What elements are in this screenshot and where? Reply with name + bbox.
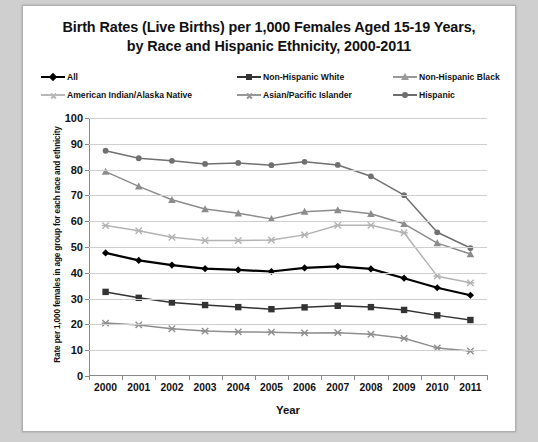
y-tick-label: 50 — [49, 241, 83, 253]
legend-item-all[interactable]: All — [41, 72, 78, 82]
data-point — [301, 264, 308, 271]
legend-marker-square-icon — [237, 72, 261, 82]
gridline — [89, 195, 487, 196]
data-point — [268, 237, 276, 243]
legend-item-non-hispanic-white[interactable]: Non-Hispanic White — [237, 72, 344, 82]
x-tick-label: 2009 — [393, 382, 416, 393]
data-point — [467, 280, 475, 286]
series-all — [102, 249, 474, 299]
x-tick-label: 2005 — [260, 382, 283, 393]
series-line — [106, 172, 471, 254]
y-tick-mark — [85, 350, 89, 351]
x-tick-mark — [155, 376, 156, 380]
data-point — [334, 263, 341, 270]
data-point — [235, 160, 241, 166]
data-point — [301, 304, 307, 310]
legend-label: All — [67, 72, 78, 82]
legend-marker-diamond-icon — [41, 72, 65, 82]
data-point — [367, 222, 375, 228]
data-point — [367, 331, 375, 337]
x-tick-label: 2006 — [293, 382, 316, 393]
data-point — [103, 148, 109, 154]
data-point — [335, 162, 341, 168]
data-point — [268, 306, 274, 312]
data-point — [235, 304, 241, 310]
plot-area: Rate per 1,000 females in age group for … — [23, 110, 515, 431]
y-tick-label: 70 — [49, 189, 83, 201]
gridline — [89, 299, 487, 300]
gridline — [89, 273, 487, 274]
x-tick-label: 2002 — [160, 382, 183, 393]
data-point — [234, 237, 242, 243]
data-point — [201, 328, 209, 334]
data-point — [202, 302, 208, 308]
page-background: Birth Rates (Live Births) per 1,000 Fema… — [0, 0, 538, 442]
x-axis-tick-labels: 2000200120022003200420052006200720082009… — [89, 382, 487, 398]
data-point — [102, 249, 109, 256]
data-point — [433, 239, 441, 246]
data-point — [202, 161, 208, 167]
y-tick-label: 20 — [49, 318, 83, 330]
series-line — [106, 253, 471, 295]
chart-title: Birth Rates (Live Births) per 1,000 Fema… — [23, 18, 515, 56]
data-point — [201, 265, 208, 272]
x-tick-mark — [255, 376, 256, 380]
y-tick-label: 40 — [49, 267, 83, 279]
legend-label: American Indian/Alaska Native — [67, 90, 192, 100]
x-tick-label: 2010 — [426, 382, 449, 393]
y-tick-mark — [85, 144, 89, 145]
legend-marker-star-icon — [41, 90, 65, 100]
data-point — [468, 245, 474, 251]
chart-title-line-2: by Race and Hispanic Ethnicity, 2000-201… — [23, 37, 515, 56]
y-tick-mark — [85, 273, 89, 274]
series-hispanic — [103, 148, 474, 251]
data-point — [102, 289, 108, 295]
y-tick-mark — [85, 170, 89, 171]
x-tick-mark — [122, 376, 123, 380]
y-tick-label: 90 — [49, 138, 83, 150]
legend-label: Asian/Pacific Islander — [263, 90, 352, 100]
data-point — [302, 159, 308, 165]
y-axis-tick-labels: 0102030405060708090100 — [49, 110, 83, 431]
data-point — [169, 299, 175, 305]
y-tick-label: 100 — [49, 112, 83, 124]
legend-label: Non-Hispanic White — [263, 72, 344, 82]
x-axis-title: Year — [89, 404, 487, 416]
data-point — [401, 307, 407, 313]
gridline — [89, 170, 487, 171]
data-point — [334, 329, 342, 335]
data-point — [168, 234, 176, 240]
gridline — [89, 144, 487, 145]
series-non-hispanic-white — [102, 289, 473, 324]
x-tick-mark — [388, 376, 389, 380]
data-point — [234, 329, 242, 335]
x-tick-mark — [354, 376, 355, 380]
x-tick-mark — [222, 376, 223, 380]
data-point — [136, 155, 142, 161]
data-point — [268, 268, 275, 275]
x-tick-mark — [321, 376, 322, 380]
data-point — [268, 329, 276, 335]
data-point — [135, 228, 143, 234]
data-point — [400, 230, 408, 236]
legend-label: Non-Hispanic Black — [419, 72, 500, 82]
data-point — [135, 257, 142, 264]
gridline — [89, 221, 487, 222]
data-point — [301, 232, 309, 238]
y-tick-label: 30 — [49, 293, 83, 305]
series-line — [106, 323, 471, 351]
x-tick-label: 2000 — [94, 382, 117, 393]
series-line — [106, 225, 471, 283]
x-tick-label: 2008 — [359, 382, 382, 393]
series-line — [106, 292, 471, 320]
legend-item-non-hispanic-black[interactable]: Non-Hispanic Black — [393, 72, 500, 82]
data-point — [269, 162, 275, 168]
legend-item-asian-pacific-islander[interactable]: Asian/Pacific Islander — [237, 90, 352, 100]
data-point — [201, 237, 209, 243]
y-tick-label: 60 — [49, 215, 83, 227]
y-tick-mark — [85, 247, 89, 248]
x-tick-mark — [421, 376, 422, 380]
x-tick-mark — [487, 376, 488, 380]
legend-item-hispanic[interactable]: Hispanic — [393, 90, 455, 100]
legend-item-american-indian-alaska-native[interactable]: American Indian/Alaska Native — [41, 90, 192, 100]
